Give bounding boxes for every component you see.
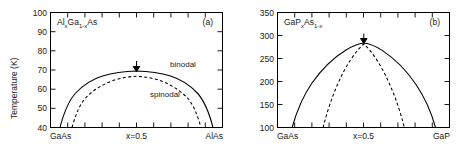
figure-container: Temperature (K) xyxy=(0,0,458,150)
ytick-label-a-3: 70 xyxy=(38,65,48,75)
binodal-curve-a xyxy=(60,71,213,128)
ytick-label-a-2: 60 xyxy=(38,84,48,94)
plot-b-yticks xyxy=(278,13,450,128)
formula-a: AlxGa1-xAs xyxy=(57,17,97,29)
formula-a-part2: Ga xyxy=(68,17,80,27)
plot-b-frame xyxy=(278,13,450,128)
plot-a-svg: 40 50 60 70 80 90 100 GaAs x=0.5 AlAs Al… xyxy=(0,0,229,150)
spinodal-curve-a xyxy=(72,76,201,127)
ytick-label-a-5: 90 xyxy=(38,27,48,37)
panel-tag-a: (a) xyxy=(203,17,214,27)
formula-a-part3: As xyxy=(87,17,97,27)
ytick-label-b-3: 250 xyxy=(260,54,274,64)
xtick-label-b-mid: x=0.5 xyxy=(353,131,374,141)
formula-b-sub2: 1-x xyxy=(314,23,322,29)
spinodal-curve-b xyxy=(323,44,404,128)
panel-b: Temperature (K) xyxy=(229,0,458,150)
binodal-curve-b xyxy=(292,43,435,128)
spinodal-label-a: spinodal xyxy=(150,90,180,99)
ytick-label-a-6: 100 xyxy=(33,8,47,18)
plot-b-svg: 100 150 200 250 300 350 GaAs x=0.5 GaP G… xyxy=(229,0,458,150)
formula-b-part1: GaP xyxy=(284,17,301,27)
xtick-label-a-left: GaAs xyxy=(50,131,71,141)
ytick-label-b-1: 150 xyxy=(260,100,274,110)
formula-b-part2: As xyxy=(304,17,314,27)
ytick-label-a-1: 50 xyxy=(38,103,48,113)
svg-text:AlxGa1-xAs: AlxGa1-xAs xyxy=(57,17,97,29)
xtick-label-b-left: GaAs xyxy=(277,131,298,141)
xtick-label-a-right: AlAs xyxy=(206,131,223,141)
formula-a-sub2: 1-x xyxy=(79,23,87,29)
xtick-label-a-mid: x=0.5 xyxy=(126,131,147,141)
ytick-label-b-5: 350 xyxy=(260,8,274,18)
ytick-label-b-2: 200 xyxy=(260,77,274,87)
panel-tag-b: (b) xyxy=(430,17,441,27)
svg-text:GaPxAs1-x: GaPxAs1-x xyxy=(284,17,322,29)
binodal-label-a: binodal xyxy=(170,60,196,69)
plot-b-xticks xyxy=(295,13,433,128)
peak-arrow-marker-a xyxy=(133,61,140,72)
peak-arrow-marker-b xyxy=(361,34,368,44)
ytick-label-b-4: 300 xyxy=(260,31,274,41)
panel-a: Temperature (K) xyxy=(0,0,229,150)
ytick-label-a-4: 80 xyxy=(38,46,48,56)
ytick-label-b-0: 100 xyxy=(260,123,274,133)
ytick-label-a-0: 40 xyxy=(38,123,48,133)
formula-b: GaPxAs1-x xyxy=(284,17,322,29)
formula-a-part1: Al xyxy=(57,17,65,27)
xtick-label-b-right: GaP xyxy=(433,131,450,141)
